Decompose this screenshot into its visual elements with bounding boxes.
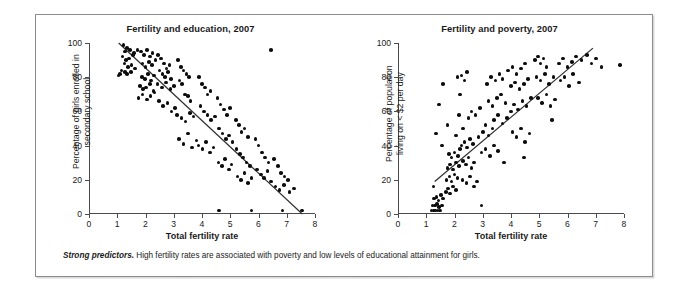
data-point bbox=[180, 82, 184, 86]
data-point bbox=[511, 130, 515, 134]
data-point bbox=[243, 171, 247, 175]
data-point bbox=[567, 84, 571, 88]
data-point bbox=[478, 106, 482, 110]
data-point bbox=[166, 70, 170, 74]
x-ticklabel-education-5: 5 bbox=[228, 219, 233, 229]
data-point bbox=[209, 89, 213, 93]
data-point bbox=[519, 127, 523, 131]
data-point bbox=[468, 175, 472, 179]
data-point bbox=[188, 111, 192, 115]
data-point bbox=[512, 103, 516, 107]
data-point bbox=[223, 157, 227, 161]
data-point bbox=[250, 176, 254, 180]
y-ticklabel-poverty-100: 100 bbox=[377, 38, 391, 48]
data-point bbox=[501, 77, 505, 81]
trendline-education bbox=[89, 43, 315, 214]
data-point bbox=[496, 113, 500, 117]
data-point bbox=[543, 72, 547, 76]
data-point bbox=[276, 164, 280, 168]
data-point bbox=[441, 82, 445, 86]
data-point bbox=[495, 96, 499, 100]
x-ticklabel-poverty-7: 7 bbox=[593, 219, 598, 229]
data-point bbox=[152, 74, 156, 78]
y-ticklabel-education-0: 0 bbox=[77, 209, 82, 219]
data-point bbox=[248, 164, 252, 168]
data-point bbox=[235, 147, 239, 151]
x-ticklabel-education-1: 1 bbox=[115, 219, 120, 229]
data-point bbox=[269, 48, 273, 52]
x-tick-poverty-5 bbox=[539, 214, 540, 218]
data-point bbox=[511, 65, 515, 69]
y-ticklabel-education-20: 20 bbox=[72, 175, 82, 185]
data-point bbox=[557, 62, 561, 66]
x-tick-poverty-6 bbox=[568, 214, 569, 218]
data-point bbox=[169, 87, 173, 91]
figure-frame: Fertility and education, 2007 Percentage… bbox=[35, 14, 653, 277]
data-point bbox=[471, 142, 475, 146]
data-point bbox=[515, 72, 519, 76]
data-point bbox=[262, 176, 266, 180]
x-tick-education-4 bbox=[202, 214, 203, 218]
data-point bbox=[143, 77, 147, 81]
data-point bbox=[169, 77, 173, 81]
data-point bbox=[212, 146, 216, 150]
x-tick-education-7 bbox=[287, 214, 288, 218]
data-point bbox=[526, 77, 530, 81]
chart-panel-fertility-education: Fertility and education, 2007 Percentage… bbox=[36, 15, 345, 243]
data-point bbox=[499, 93, 503, 97]
x-ticklabel-poverty-4: 4 bbox=[509, 219, 514, 229]
data-point bbox=[456, 176, 460, 180]
data-point bbox=[161, 104, 165, 108]
data-point bbox=[128, 48, 132, 52]
data-point bbox=[145, 98, 149, 102]
data-point bbox=[240, 130, 244, 134]
data-point bbox=[463, 140, 467, 144]
data-point bbox=[246, 135, 250, 139]
x-tick-education-5 bbox=[230, 214, 231, 218]
data-point bbox=[470, 166, 474, 170]
data-point bbox=[505, 116, 509, 120]
data-point bbox=[142, 53, 146, 57]
data-point bbox=[550, 118, 554, 122]
data-point bbox=[445, 178, 449, 182]
x-ticklabel-education-6: 6 bbox=[256, 219, 261, 229]
x-tick-poverty-1 bbox=[426, 214, 427, 218]
data-point bbox=[217, 127, 221, 131]
data-point bbox=[237, 123, 241, 127]
y-ticklabel-poverty-80: 80 bbox=[381, 72, 391, 82]
data-point bbox=[148, 82, 152, 86]
data-point bbox=[217, 209, 221, 213]
x-tick-education-0 bbox=[89, 214, 90, 218]
data-point bbox=[522, 156, 526, 160]
data-point bbox=[154, 58, 158, 62]
data-point bbox=[220, 164, 224, 168]
data-point bbox=[552, 75, 556, 79]
data-point bbox=[454, 134, 458, 138]
data-point bbox=[481, 130, 485, 134]
data-point bbox=[496, 149, 500, 153]
data-point bbox=[288, 190, 292, 194]
data-point bbox=[446, 166, 450, 170]
x-ticklabel-poverty-3: 3 bbox=[480, 219, 485, 229]
data-point bbox=[172, 84, 176, 88]
data-point bbox=[545, 65, 549, 69]
data-point bbox=[566, 65, 570, 69]
data-point bbox=[570, 60, 574, 64]
data-point bbox=[127, 57, 131, 61]
data-point bbox=[458, 147, 462, 151]
data-point bbox=[292, 187, 296, 191]
x-axis-label-education: Total fertility rate bbox=[89, 231, 315, 241]
data-point bbox=[173, 106, 177, 110]
x-ticklabel-education-0: 0 bbox=[87, 219, 92, 229]
data-point bbox=[282, 183, 286, 187]
x-ticklabel-poverty-6: 6 bbox=[565, 219, 570, 229]
caption-lead: Strong predictors. bbox=[63, 251, 134, 260]
x-ticklabel-poverty-1: 1 bbox=[424, 219, 429, 229]
data-point bbox=[286, 178, 290, 182]
data-point bbox=[213, 115, 217, 119]
data-point bbox=[156, 82, 160, 86]
data-point bbox=[536, 96, 540, 100]
data-point bbox=[545, 93, 549, 97]
data-point bbox=[465, 146, 469, 150]
data-point bbox=[133, 67, 137, 71]
